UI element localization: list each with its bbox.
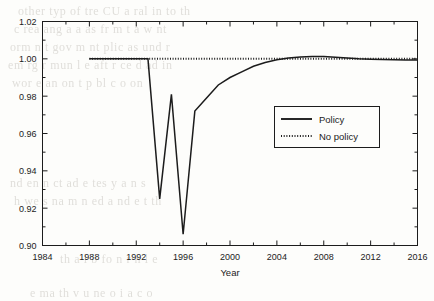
x-tick-label: 1996 [173,252,193,262]
legend-label-policy: Policy [319,114,345,125]
y-tick-label: 0.90 [19,241,37,251]
y-tick-label: 0.92 [19,204,37,214]
x-tick-label: 2012 [361,252,381,262]
x-axis-tick-labels: 198419881992199620002004200820122016 [32,252,427,262]
y-tick-label: 0.96 [19,129,37,139]
x-tick-label: 2016 [407,252,427,262]
x-tick-label: 2000 [220,252,240,262]
legend-label-no-policy: No policy [319,131,358,142]
legend: Policy No policy [275,107,380,148]
x-tick-label: 2004 [267,252,287,262]
x-tick-label: 1984 [32,252,52,262]
x-tick-label: 1992 [126,252,146,262]
y-tick-label: 0.98 [19,92,37,102]
y-tick-label: 1.02 [19,17,37,27]
x-tick-label: 2008 [314,252,334,262]
y-tick-label: 1.00 [19,54,37,64]
x-tick-label: 1988 [79,252,99,262]
x-axis-title: Year [220,267,239,278]
y-tick-label: 0.94 [19,166,37,176]
y-axis-tick-labels: 0.900.920.940.960.981.001.02 [19,17,37,251]
